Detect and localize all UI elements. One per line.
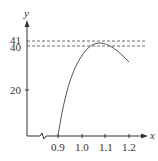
ytick-label-40: 40 [10,41,22,53]
xtick-label-1.1: 1.1 [99,141,113,153]
ytick-label-20: 20 [10,84,22,96]
x-axis [27,133,144,139]
data-curve [58,43,129,136]
xtick-label-1.0: 1.0 [75,141,89,153]
chart: y x 41 40 20 0.9 1.0 1.1 1.2 [0,0,158,161]
x-axis-label: x [149,129,155,141]
y-axis-label: y [23,7,29,19]
xtick-label-1.2: 1.2 [122,141,136,153]
x-axis-arrow-icon [141,134,148,139]
y-axis-arrow-icon [25,20,30,27]
xtick-label-0.9: 0.9 [51,141,65,153]
